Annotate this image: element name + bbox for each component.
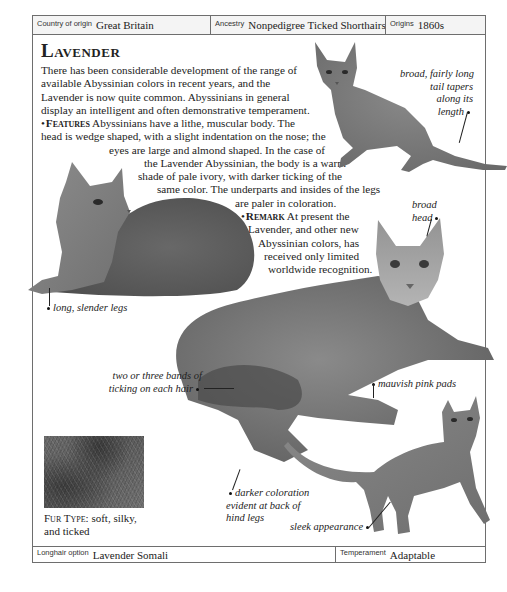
annotation-ticking-line: two or three bands of xyxy=(62,370,202,383)
annotation-tail-line: broad, fairly long xyxy=(400,68,473,81)
ancestry-cell: Ancestry Nonpedigree Ticked Shorthairs xyxy=(210,16,385,34)
annotation-pads: mauvish pink pads xyxy=(369,378,456,391)
page-title: Lavender xyxy=(41,40,120,62)
ancestry-label: Ancestry xyxy=(215,19,244,28)
annotation-legs: long, slender legs xyxy=(44,302,127,315)
annotation-ticking-line-2: ticking on each hair xyxy=(62,383,202,396)
annotation-hind-line: evident at back of xyxy=(226,500,309,513)
annotation-sleek-text: sleek appearance xyxy=(290,521,363,532)
annotation-hind-text: darker coloration xyxy=(235,487,309,498)
ancestry-value: Nonpedigree Ticked Shorthairs xyxy=(248,19,385,31)
annotation-tail-line-4: length xyxy=(400,106,473,119)
annotation-hind-line-1: darker coloration xyxy=(226,487,309,500)
annotation-pads-text: mauvish pink pads xyxy=(378,378,456,389)
annotation-head-line-2: head xyxy=(412,212,452,225)
annotation-head: broad head xyxy=(412,199,452,224)
leader-line xyxy=(49,288,50,306)
info-footer-row: Longhair option Lavender Somali Temperam… xyxy=(32,546,486,563)
origins-label: Origins xyxy=(390,19,414,28)
longhair-value: Lavender Somali xyxy=(93,549,168,561)
fur-swatch-image xyxy=(44,436,144,508)
annotation-sleek: sleek appearance xyxy=(290,521,372,534)
country-of-origin-cell: Country of origin Great Britain xyxy=(33,16,210,34)
leader-dot-icon xyxy=(435,217,438,220)
fur-type-label: Fur Type: xyxy=(44,512,89,524)
fur-type-value: soft, silky, xyxy=(91,512,136,524)
origins-cell: Origins 1860s xyxy=(385,16,485,34)
annotation-tail-line: along its xyxy=(400,93,473,106)
walking-cat-image xyxy=(284,392,494,542)
annotation-tail: broad, fairly long tail tapers along its… xyxy=(400,68,473,118)
annotation-head-line: broad xyxy=(412,199,452,212)
temperament-label: Temperament xyxy=(340,548,386,557)
longhair-label: Longhair option xyxy=(37,548,89,557)
leader-dot-icon xyxy=(196,388,199,391)
info-header-row: Country of origin Great Britain Ancestry… xyxy=(32,15,486,35)
temperament-value: Adaptable xyxy=(390,549,435,561)
temperament-cell: Temperament Adaptable xyxy=(335,547,485,562)
annotation-tail-line: tail tapers xyxy=(400,81,473,94)
longhair-option-cell: Longhair option Lavender Somali xyxy=(33,547,335,562)
fur-type-caption: Fur Type: soft, silky, and ticked xyxy=(44,512,137,538)
annotation-tail-text: length xyxy=(438,106,464,117)
annotation-hind-legs: darker coloration evident at back of hin… xyxy=(226,487,309,525)
intro-line: display an intelligent and often demonst… xyxy=(41,104,331,117)
fur-type-line-1: Fur Type: soft, silky, xyxy=(44,512,137,525)
origins-value: 1860s xyxy=(418,19,444,31)
leader-line xyxy=(204,388,234,389)
annotation-ticking-text: ticking on each hair xyxy=(109,383,193,394)
leader-line xyxy=(373,384,374,398)
intro-line: There has been considerable development … xyxy=(41,64,331,77)
annotation-legs-text: long, slender legs xyxy=(53,302,127,313)
leader-dot-icon xyxy=(47,307,50,310)
intro-paragraph: There has been considerable development … xyxy=(41,64,331,117)
country-label: Country of origin xyxy=(37,19,92,28)
features-text: Abyssinians have a lithe, muscular body.… xyxy=(92,117,295,129)
fur-type-line-2: and ticked xyxy=(44,525,137,538)
leader-dot-icon xyxy=(229,492,232,495)
intro-line: available Abyssinian colors in recent ye… xyxy=(41,77,331,90)
intro-line: Lavender is now quite common. Abyssinian… xyxy=(41,91,331,104)
annotation-ticking: two or three bands of ticking on each ha… xyxy=(62,370,202,395)
features-heading: Features xyxy=(46,117,90,129)
country-value: Great Britain xyxy=(96,19,154,31)
